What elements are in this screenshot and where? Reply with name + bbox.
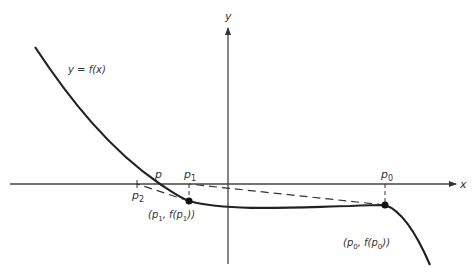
x-axis-label: x [459, 178, 467, 191]
label-p: p [154, 168, 162, 181]
curve-label: y = f(x) [67, 64, 106, 75]
y-axis-label: y [224, 10, 232, 23]
label-p2: p2 [131, 189, 144, 204]
point-p1-on-curve [186, 198, 193, 205]
secant-line-p0-p1 [189, 184, 385, 205]
label-point-p0: (p0, f(p0)) [343, 237, 390, 251]
point-p0-on-curve [382, 202, 389, 209]
secant-method-diagram: x y y = f(x) p p1 p2 p0 (p1, f(p1)) (p0,… [0, 0, 474, 279]
label-point-p1: (p1, f(p1)) [148, 209, 195, 223]
label-p1: p1 [183, 168, 196, 183]
label-p0: p0 [380, 168, 393, 183]
function-curve [35, 47, 430, 265]
